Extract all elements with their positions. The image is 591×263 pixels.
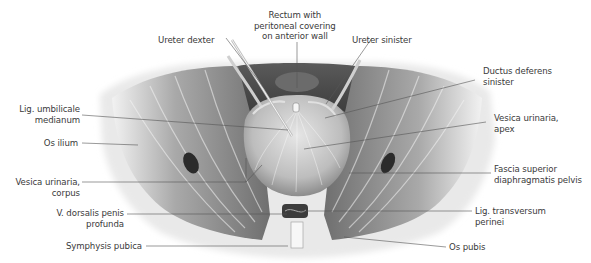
label-vesica-corpus: Vesica urinaria, corpus <box>16 177 81 198</box>
label-text: Vesica urinaria, <box>16 177 81 188</box>
label-text: Fascia superior <box>494 164 582 175</box>
symphysis-pubica-shape <box>291 222 303 248</box>
label-text: Symphysis pubica <box>66 241 142 252</box>
label-text: sinister <box>483 77 552 88</box>
label-text: apex <box>494 124 559 135</box>
urachus-stub <box>293 103 299 112</box>
label-text: Ductus deferens <box>483 66 552 77</box>
label-text: Rectum with <box>254 10 336 21</box>
label-text: Ureter sinister <box>352 35 412 46</box>
label-lig-umbilicale: Lig. umbilicale medianum <box>0 104 80 125</box>
label-text: diaphragmatis pelvis <box>494 175 582 186</box>
label-symphysis: Symphysis pubica <box>66 241 142 252</box>
label-text: Os pubis <box>449 242 485 253</box>
label-ductus-deferens: Ductus deferens sinister <box>483 66 552 87</box>
label-v-dorsalis: V. dorsalis penis profunda <box>56 208 124 229</box>
label-ureter-dexter: Ureter dexter <box>158 35 214 46</box>
label-text: Ureter dexter <box>158 35 214 46</box>
label-os-ilium: Os ilium <box>44 138 78 149</box>
label-text: Vesica urinaria, <box>494 113 559 124</box>
label-text: Os ilium <box>44 138 78 149</box>
label-ureter-sinister: Ureter sinister <box>352 35 412 46</box>
label-text: medianum <box>0 115 80 126</box>
label-text: peritoneal covering <box>254 21 336 32</box>
label-text: corpus <box>16 188 81 199</box>
label-text: perinei <box>475 217 546 228</box>
label-fascia: Fascia superior diaphragmatis pelvis <box>494 164 582 185</box>
label-vesica-apex: Vesica urinaria, apex <box>494 113 559 134</box>
label-text: Lig. umbilicale <box>0 104 80 115</box>
label-rectum: Rectum with peritoneal covering on anter… <box>254 10 336 42</box>
anatomy-figure: Rectum with peritoneal covering on anter… <box>0 0 591 263</box>
label-os-pubis: Os pubis <box>449 242 485 253</box>
label-text: profunda <box>56 219 124 230</box>
label-text: on anterior wall <box>254 31 336 42</box>
label-text: V. dorsalis penis <box>56 208 124 219</box>
label-text: Lig. transversum <box>475 206 546 217</box>
label-lig-transversum: Lig. transversum perinei <box>475 206 546 227</box>
